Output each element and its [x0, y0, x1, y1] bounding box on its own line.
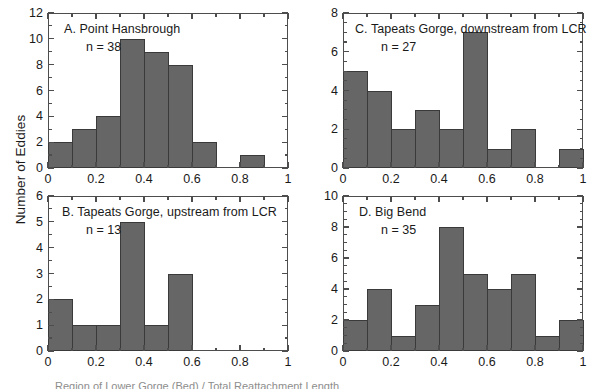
y-axis-tick: [580, 296, 584, 297]
y-axis-tick-label: 4: [36, 109, 43, 123]
y-axis-tick: [343, 203, 347, 204]
histogram-bar: [144, 52, 169, 168]
panel-b-title: B. Tapeats Gorge, upstream from LCR: [62, 205, 277, 219]
y-axis-tick: [343, 148, 347, 149]
x-axis-tick: [239, 196, 240, 202]
y-axis-tick: [343, 100, 347, 101]
y-axis-tick-label: 10: [324, 189, 338, 203]
y-axis-tick: [343, 119, 347, 120]
y-axis-tick: [48, 208, 52, 209]
x-axis-tick: [95, 196, 96, 202]
x-axis-tick: [167, 348, 168, 352]
y-axis-tick: [285, 312, 289, 313]
x-axis-tick-label: 0.6: [183, 355, 200, 369]
x-axis-tick-label: 0.6: [478, 355, 495, 369]
y-axis-tick: [285, 25, 289, 26]
y-axis-tick: [48, 90, 54, 91]
y-axis-tick: [343, 296, 347, 297]
x-axis-tick: [191, 13, 192, 19]
y-axis-tick: [580, 312, 584, 313]
x-axis-tick: [534, 345, 535, 351]
y-axis-tick-label: 8: [331, 6, 338, 20]
x-axis-tick: [462, 13, 463, 17]
y-axis-tick: [48, 325, 54, 326]
x-axis-tick: [71, 348, 72, 352]
y-axis-tick: [48, 51, 52, 52]
x-axis-tick: [486, 196, 487, 202]
x-axis-tick: [71, 13, 72, 17]
histogram-figure: Number of Eddies A. Point Hansbrough n =…: [0, 0, 590, 389]
y-axis-tick: [343, 242, 347, 243]
histogram-bar: [48, 142, 73, 168]
x-axis-tick-label: 0.2: [382, 355, 399, 369]
x-axis-tick: [119, 13, 120, 17]
x-axis-tick: [342, 345, 343, 351]
y-axis-tick: [580, 119, 584, 120]
y-axis-tick: [48, 167, 54, 168]
y-axis-tick: [285, 234, 289, 235]
y-axis-tick: [48, 64, 54, 65]
panel-c-tapeats-gorge-downstream: C. Tapeats Gorge, downstream from LCR n …: [343, 13, 583, 168]
x-axis-tick-label: 0: [340, 355, 347, 369]
x-axis-tick: [558, 165, 559, 169]
y-axis-tick: [285, 154, 289, 155]
y-axis-tick: [343, 327, 347, 328]
histogram-bar: [463, 32, 488, 168]
y-axis-tick: [580, 265, 584, 266]
y-axis-tick: [580, 80, 584, 81]
y-axis-tick: [343, 350, 349, 351]
y-axis-tick: [285, 77, 289, 78]
y-axis-tick-label: 6: [36, 189, 43, 203]
y-axis-tick: [48, 286, 52, 287]
y-axis-tick: [343, 265, 347, 266]
figure-caption-cropped: Region of Lower Gorge (Bed) / Total Reat…: [55, 380, 535, 389]
x-axis-tick: [438, 162, 439, 168]
y-axis-tick: [48, 247, 54, 248]
y-axis-tick: [48, 350, 54, 351]
y-axis-tick: [282, 142, 288, 143]
x-axis-tick: [342, 196, 343, 202]
histogram-bar: [120, 222, 145, 351]
y-axis-tick: [48, 129, 52, 130]
panel-d-n: n = 35: [381, 223, 416, 237]
x-axis-tick: [263, 165, 264, 169]
y-axis-tick: [48, 116, 54, 117]
y-axis-tick: [282, 299, 288, 300]
y-axis-tick: [48, 103, 52, 104]
y-axis-tick: [580, 32, 584, 33]
x-axis-tick: [414, 13, 415, 17]
histogram-bar: [144, 325, 169, 351]
y-axis-tick: [48, 195, 54, 196]
y-axis-tick-label: 2: [331, 122, 338, 136]
x-axis-tick-label: 0: [45, 172, 52, 186]
y-axis-tick: [580, 148, 584, 149]
histogram-bar: [463, 274, 488, 352]
x-axis-tick-label: 0.2: [87, 355, 104, 369]
y-axis-tick-label: 6: [331, 45, 338, 59]
x-axis-tick: [119, 348, 120, 352]
y-axis-tick: [580, 335, 584, 336]
y-axis-tick: [580, 219, 584, 220]
y-axis-tick: [580, 41, 584, 42]
x-axis-tick: [510, 348, 511, 352]
x-axis-tick: [47, 13, 48, 19]
x-axis-tick: [486, 162, 487, 168]
x-axis-tick: [414, 165, 415, 169]
y-axis-tick: [343, 41, 347, 42]
y-axis-tick: [343, 226, 349, 227]
y-axis-tick: [580, 343, 584, 344]
y-axis-tick: [48, 77, 52, 78]
y-axis-tick: [48, 12, 54, 13]
panel-a-title: A. Point Hansbrough: [64, 22, 180, 36]
bars-d: [343, 196, 583, 351]
histogram-bar: [415, 305, 440, 352]
x-axis-tick: [486, 345, 487, 351]
x-axis-tick-label: 0.2: [87, 172, 104, 186]
histogram-bar: [367, 289, 392, 351]
x-axis-tick: [366, 348, 367, 352]
y-axis-tick: [343, 158, 347, 159]
x-axis-tick: [287, 162, 288, 168]
y-axis-tick: [48, 154, 52, 155]
x-axis-tick: [438, 345, 439, 351]
y-axis-tick-label: 0: [331, 344, 338, 358]
